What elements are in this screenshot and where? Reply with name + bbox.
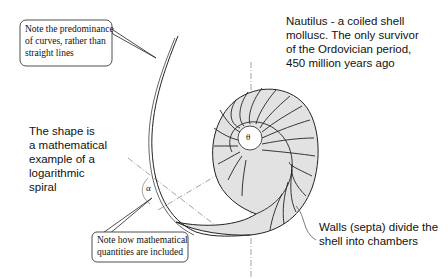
shape-label-line: spiral: [29, 180, 107, 194]
shape-label-line: The shape is: [29, 124, 107, 138]
alpha-symbol: α: [146, 183, 151, 193]
nautilus-label-line: 450 million years ago: [286, 56, 419, 70]
nautilus-label-line: of the Ordovician period,: [286, 42, 419, 56]
nautilus-label-line: mollusc. The only survivor: [286, 28, 419, 42]
shape-label-line: a mathematical: [29, 138, 107, 152]
nautilus-label-line: Nautilus - a coiled shell: [286, 14, 419, 28]
curves-note-line: Note the predominance: [25, 23, 114, 35]
shape-label-line: logarithmic: [29, 166, 107, 180]
nautilus-label: Nautilus - a coiled shell mollusc. The o…: [286, 14, 419, 70]
shell-body: [176, 89, 318, 235]
shape-label: The shape is a mathematical example of a…: [29, 124, 107, 194]
nautilus-diagram: Note the predominance of curves, rather …: [0, 0, 448, 279]
shape-label-line: example of a: [29, 152, 107, 166]
curves-note-line: of curves, rather than: [25, 35, 114, 47]
math-note-line: quantities are included: [97, 246, 188, 258]
walls-label: Walls (septa) divide the shell into cham…: [319, 220, 438, 248]
walls-label-line: shell into chambers: [319, 234, 438, 248]
walls-label-line: Walls (septa) divide the: [319, 220, 438, 234]
math-note: Note how mathematical quantities are inc…: [97, 234, 188, 258]
theta-symbol: θ: [246, 132, 250, 142]
curves-note: Note the predominance of curves, rather …: [25, 23, 114, 59]
curves-note-line: straight lines: [25, 47, 114, 59]
math-note-line: Note how mathematical: [97, 234, 188, 246]
